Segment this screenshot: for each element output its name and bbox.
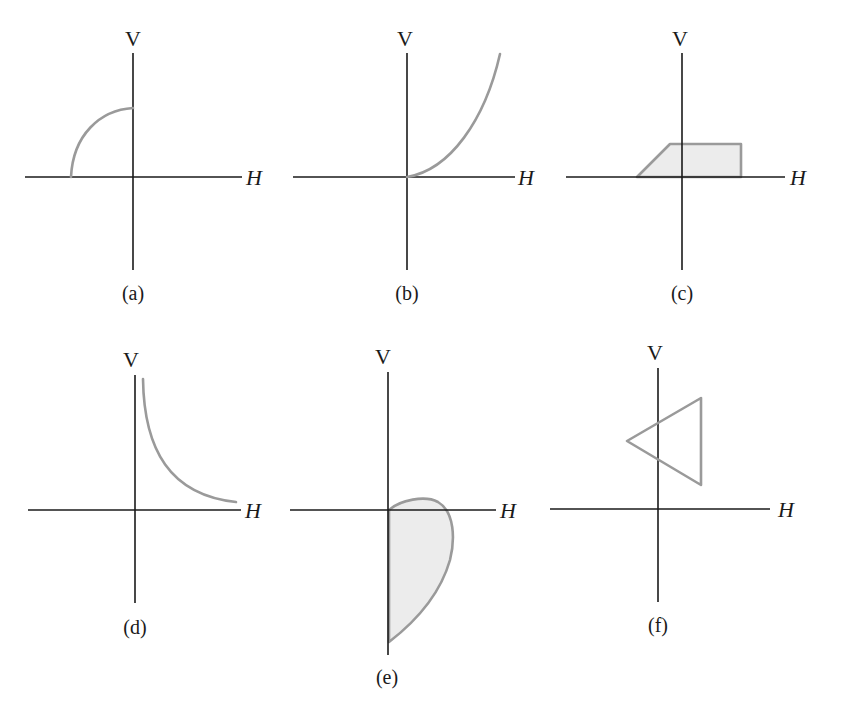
h-axis-label: H — [777, 497, 795, 522]
h-axis-label: H — [517, 165, 535, 190]
panel-caption: (c) — [671, 282, 693, 305]
v-axis-label: V — [375, 344, 391, 369]
panel-caption: (d) — [123, 616, 146, 639]
h-axis-label: H — [245, 165, 263, 190]
v-axis-label: V — [672, 26, 688, 51]
panel-e: V H (e) — [290, 344, 517, 689]
h-axis-label: H — [244, 498, 262, 523]
arc-curve — [71, 108, 133, 177]
teardrop-region — [389, 499, 453, 642]
panel-caption: (a) — [122, 282, 144, 305]
panel-caption: (b) — [395, 282, 418, 305]
h-axis-label: H — [499, 498, 517, 523]
panel-d: V H (d) — [28, 347, 262, 639]
v-axis-label: V — [397, 26, 413, 51]
decreasing-curve — [143, 379, 236, 502]
panel-f: V H (f) — [550, 340, 795, 637]
panel-c: V H (c) — [566, 26, 807, 305]
v-axis-label: V — [647, 340, 663, 365]
figure-canvas: V H (a) V H (b) V H (c) V H (d) V H (e) — [0, 0, 858, 712]
trapezoid-region — [637, 144, 741, 177]
h-axis-label: H — [789, 165, 807, 190]
panel-caption: (f) — [648, 614, 668, 637]
v-axis-label: V — [123, 347, 139, 372]
v-axis-label: V — [125, 26, 141, 51]
triangle-outline — [627, 398, 701, 485]
panel-a: V H (a) — [25, 26, 263, 305]
rising-curve — [407, 54, 500, 177]
panel-b: V H (b) — [293, 26, 535, 305]
panel-caption: (e) — [376, 666, 398, 689]
